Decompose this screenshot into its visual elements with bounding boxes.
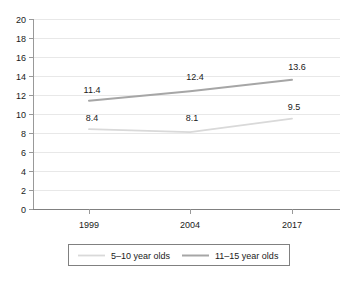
legend-label-11-15: 11–15 year olds [215, 251, 279, 261]
y-tick-label-4: 4 [21, 167, 26, 177]
x-tick-label-2004: 2004 [180, 220, 200, 230]
legend-label-5-10: 5–10 year olds [111, 251, 171, 261]
chart-legend: 5–10 year olds 11–15 year olds [69, 245, 290, 266]
data-label-11-15-1999: 11.4 [84, 85, 101, 95]
y-tick-label-16: 16 [16, 53, 26, 63]
x-tick-label-1999: 1999 [79, 220, 99, 230]
line-chart: 20 18 16 14 12 10 8 6 4 2 0 1999 2004 20… [0, 0, 353, 283]
chart-svg: 20 18 16 14 12 10 8 6 4 2 0 1999 2004 20… [0, 0, 353, 283]
y-tick-label-8: 8 [21, 129, 26, 139]
data-label-5-10-1999: 8.4 [86, 113, 99, 123]
y-tick-label-18: 18 [16, 34, 26, 44]
y-tick-label-12: 12 [16, 91, 26, 101]
data-label-11-15-2017: 13.6 [288, 62, 306, 72]
y-tick-label-2: 2 [21, 186, 26, 196]
x-tick-label-2017: 2017 [282, 220, 302, 230]
data-label-11-15-2004: 12.4 [186, 72, 204, 82]
data-label-5-10-2017: 9.5 [288, 102, 301, 112]
chart-background [0, 0, 353, 283]
data-label-5-10-2004: 8.1 [186, 113, 199, 123]
y-tick-label-10: 10 [16, 110, 26, 120]
y-tick-label-0: 0 [21, 205, 26, 215]
y-tick-label-20: 20 [16, 15, 26, 25]
y-tick-label-14: 14 [16, 72, 26, 82]
y-tick-label-6: 6 [21, 148, 26, 158]
